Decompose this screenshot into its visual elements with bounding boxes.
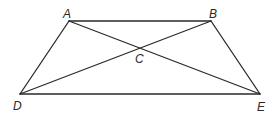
- segment-ad: [20, 21, 69, 94]
- diagram-canvas: A B C D E: [0, 0, 277, 114]
- label-b: B: [209, 7, 217, 21]
- label-d: D: [13, 99, 22, 113]
- segment-ae: [69, 21, 260, 94]
- labels-group: A B C D E: [13, 7, 266, 114]
- label-c: C: [135, 52, 144, 66]
- label-e: E: [257, 100, 266, 114]
- label-a: A: [62, 7, 71, 21]
- segment-be: [211, 21, 260, 94]
- trapezoid-diagram: A B C D E: [0, 0, 277, 114]
- segment-bd: [20, 21, 211, 94]
